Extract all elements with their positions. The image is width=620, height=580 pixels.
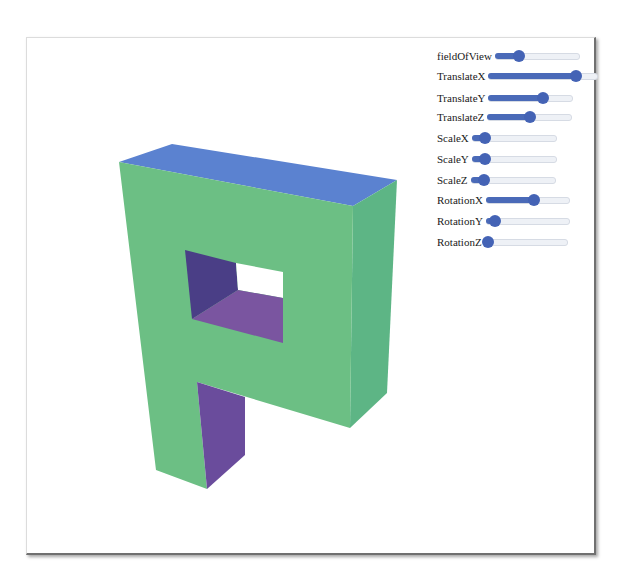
slider-thumb[interactable] bbox=[489, 215, 501, 227]
controls-panel: fieldOfView TranslateX TranslateY Transl… bbox=[0, 0, 620, 580]
rotationx-slider[interactable] bbox=[486, 194, 570, 206]
control-rotationy: RotationY bbox=[437, 211, 570, 231]
translatey-slider[interactable] bbox=[488, 92, 573, 104]
control-translatez: TranslateZ bbox=[437, 107, 572, 127]
slider-label: ScaleX bbox=[437, 132, 469, 144]
scalez-slider[interactable] bbox=[471, 174, 556, 186]
scalex-slider[interactable] bbox=[472, 132, 557, 144]
slider-thumb[interactable] bbox=[479, 153, 491, 165]
slider-thumb[interactable] bbox=[478, 174, 490, 186]
rotationz-slider[interactable] bbox=[485, 236, 568, 248]
control-rotationx: RotationX bbox=[437, 190, 570, 210]
translatez-slider[interactable] bbox=[487, 111, 572, 123]
slider-label: TranslateX bbox=[437, 70, 485, 82]
control-rotationz: RotationZ bbox=[437, 232, 568, 252]
slider-thumb[interactable] bbox=[479, 132, 491, 144]
translatex-slider[interactable] bbox=[488, 70, 598, 82]
slider-label: RotationY bbox=[437, 215, 483, 227]
scaley-slider[interactable] bbox=[472, 153, 557, 165]
slider-thumb[interactable] bbox=[524, 111, 536, 123]
rotationy-slider[interactable] bbox=[486, 215, 570, 227]
control-translatex: TranslateX bbox=[437, 66, 598, 86]
slider-label: TranslateZ bbox=[437, 111, 484, 123]
slider-label: RotationX bbox=[437, 194, 483, 206]
control-scalez: ScaleZ bbox=[437, 170, 556, 190]
slider-thumb[interactable] bbox=[570, 70, 582, 82]
control-scalex: ScaleX bbox=[437, 128, 557, 148]
control-fieldofview: fieldOfView bbox=[437, 46, 580, 66]
slider-label: RotationZ bbox=[437, 236, 482, 248]
slider-label: ScaleY bbox=[437, 153, 469, 165]
control-translatey: TranslateY bbox=[437, 88, 573, 108]
slider-thumb[interactable] bbox=[537, 92, 549, 104]
slider-label: fieldOfView bbox=[437, 50, 492, 62]
fieldofview-slider[interactable] bbox=[495, 50, 580, 62]
slider-label: ScaleZ bbox=[437, 174, 468, 186]
slider-thumb[interactable] bbox=[513, 50, 525, 62]
slider-thumb[interactable] bbox=[482, 236, 494, 248]
slider-label: TranslateY bbox=[437, 92, 485, 104]
slider-thumb[interactable] bbox=[528, 194, 540, 206]
control-scaley: ScaleY bbox=[437, 149, 557, 169]
